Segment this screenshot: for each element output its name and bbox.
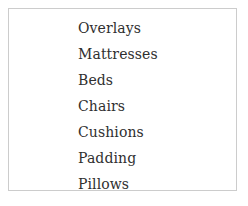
list-item-label: Mattresses bbox=[78, 46, 158, 62]
list-item[interactable]: Pillows bbox=[78, 171, 228, 197]
list-panel: Overlays Mattresses Beds Chairs Cushions… bbox=[8, 8, 237, 191]
list-item-label: Beds bbox=[78, 72, 113, 88]
list-item[interactable]: Cushions bbox=[78, 119, 228, 145]
list-item[interactable]: Chairs bbox=[78, 93, 228, 119]
list-item-label: Pillows bbox=[78, 176, 129, 192]
list-item-label: Overlays bbox=[78, 20, 141, 36]
list-item-label: Padding bbox=[78, 150, 136, 166]
list-item[interactable]: Overlays bbox=[78, 15, 228, 41]
list-item[interactable]: Mattresses bbox=[78, 41, 228, 67]
list-item[interactable]: Beds bbox=[78, 67, 228, 93]
list-item-label: Cushions bbox=[78, 124, 144, 140]
category-list: Overlays Mattresses Beds Chairs Cushions… bbox=[78, 15, 228, 197]
list-item[interactable]: Padding bbox=[78, 145, 228, 171]
list-item-label: Chairs bbox=[78, 98, 125, 114]
